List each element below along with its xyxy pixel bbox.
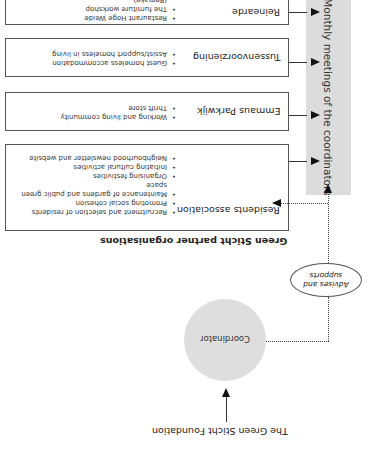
arrow-right-icon xyxy=(311,157,320,165)
org-item: Recruitment and selection of residents xyxy=(14,207,176,216)
connector-line xyxy=(289,161,307,162)
org-box-emmaus-parkwijk: Emmaus Parkwijk Working and living commu… xyxy=(5,92,289,131)
org-item: Assist/support homeless in living xyxy=(36,49,176,58)
coordinator-circle: Coordinator xyxy=(184,299,266,381)
org-item: Neighbourhood newsletter and website xyxy=(14,153,176,162)
org-name-residents-association: Residents association xyxy=(177,205,280,216)
arrow-right-icon xyxy=(311,58,320,66)
arrow-right-icon xyxy=(311,8,320,16)
advises-label: Advises and supports xyxy=(291,271,361,289)
connector-line xyxy=(289,115,307,116)
org-item: Promoting social cohesion xyxy=(14,198,176,207)
connector-line xyxy=(289,62,307,63)
advise-dotted-line xyxy=(328,297,329,341)
partners-caption: Green Sticht partner organisations xyxy=(100,236,287,247)
advise-dotted-line xyxy=(328,190,329,263)
arrow-up-icon xyxy=(222,388,230,397)
org-item: Restaurant Hoge Weide xyxy=(61,13,176,22)
org-items-emmaus-parkwijk: Working and living community Thrift stor… xyxy=(41,103,176,121)
advise-dotted-line xyxy=(255,341,329,342)
foundation-title: The Green Sticht Foundation xyxy=(152,426,288,437)
advise-dotted-line xyxy=(280,203,328,204)
org-box-residents-association: Residents association Recruitment and se… xyxy=(5,144,289,231)
org-name-reinearde: Reinearde xyxy=(232,7,280,18)
org-item: Maintenance of gardens and public green … xyxy=(14,180,176,198)
org-item: The furniture workshop (Remake) xyxy=(61,0,176,13)
coordinator-label: Coordinator xyxy=(184,334,266,344)
org-items-tussenvoorziening: Guest homeless accommodation Assist/supp… xyxy=(36,49,176,67)
monthly-meetings-label: Monthly meetings of the coordinators xyxy=(322,0,334,197)
org-item: Initiating cultural activities xyxy=(14,162,176,171)
advises-ellipse: Advises and supports xyxy=(290,263,362,297)
arrow-left-icon xyxy=(272,199,281,207)
connector-line xyxy=(289,12,307,13)
org-name-emmaus-parkwijk: Emmaus Parkwijk xyxy=(197,106,280,117)
org-items-residents-association: Recruitment and selection of residents P… xyxy=(14,153,176,216)
arrow-up-icon xyxy=(324,184,332,193)
arrow-right-icon xyxy=(311,111,320,119)
org-name-tussenvoorziening: Tussenvoorziening xyxy=(193,52,280,63)
org-box-reinearde: Reinearde Restaurant Hoge Weide The furn… xyxy=(5,0,289,25)
org-box-tussenvoorziening: Tussenvoorziening Guest homeless accommo… xyxy=(5,38,289,77)
org-item: Guest homeless accommodation xyxy=(36,58,176,67)
org-item: Organising festivities xyxy=(14,171,176,180)
org-items-reinearde: Restaurant Hoge Weide The furniture work… xyxy=(61,0,176,22)
org-item: Thrift store xyxy=(41,103,176,112)
org-item: Working and living community xyxy=(41,112,176,121)
